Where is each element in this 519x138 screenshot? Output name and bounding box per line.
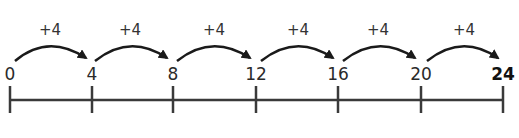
jump-arrows [15, 46, 498, 61]
jump-label: +4 [39, 23, 61, 38]
tick-label: 12 [245, 66, 267, 83]
tick-label: 20 [410, 66, 432, 83]
jump-arrow-5 [343, 46, 415, 61]
jump-arrow-4 [261, 46, 333, 61]
number-line-diagram: +4 +4 +4 +4 +4 +4 0 4 8 12 16 20 24 [0, 0, 519, 138]
jump-arrow-1 [15, 46, 86, 61]
jump-label: +4 [203, 23, 225, 38]
tick-label: 4 [87, 66, 98, 83]
jump-label: +4 [119, 23, 141, 38]
tick-label: 0 [5, 66, 16, 83]
final-tick-label: 24 [491, 66, 515, 83]
tick-label: 16 [327, 66, 349, 83]
jump-arrow-3 [177, 46, 250, 61]
tick-label: 8 [168, 66, 179, 83]
jump-label: +4 [287, 23, 309, 38]
jump-arrow-6 [427, 46, 498, 61]
jump-label: +4 [367, 23, 389, 38]
jump-label: +4 [453, 23, 475, 38]
jump-arrow-2 [95, 46, 167, 61]
